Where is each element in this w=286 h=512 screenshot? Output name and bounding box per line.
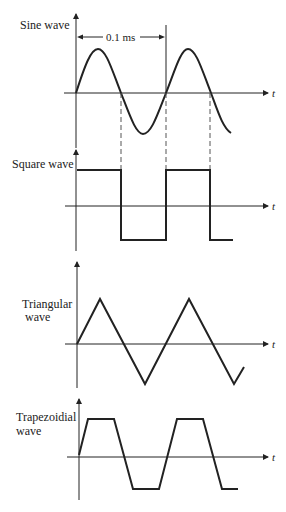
t-label-trapezoidial: t (272, 451, 276, 463)
waveform-diagram: 0.1 ms t t t t (0, 0, 286, 512)
period-label: 0.1 ms (106, 31, 135, 43)
trapezoidial-curve (79, 419, 238, 489)
t-label-sine: t (272, 87, 276, 99)
t-label-triangular: t (272, 338, 276, 350)
square-curve (77, 170, 233, 240)
sine-curve (76, 49, 231, 134)
triangular-curve (77, 299, 244, 384)
t-label-square: t (272, 200, 276, 212)
